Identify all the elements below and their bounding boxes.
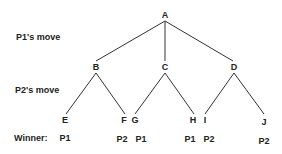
node-d: D bbox=[231, 62, 238, 72]
tree-edges bbox=[0, 0, 282, 154]
winner-j: P2 bbox=[258, 136, 269, 146]
node-i: I bbox=[204, 115, 207, 125]
game-tree-diagram: P1's move P2's move Winner: A B C D E F … bbox=[0, 0, 282, 154]
edge-c-h bbox=[165, 73, 194, 114]
edge-b-e bbox=[66, 73, 96, 114]
winner-g: P1 bbox=[135, 134, 146, 144]
node-f: F bbox=[121, 115, 127, 125]
winner-e: P1 bbox=[59, 133, 70, 143]
winner-label: Winner: bbox=[14, 133, 47, 143]
edge-d-i bbox=[205, 73, 234, 114]
edge-c-g bbox=[135, 73, 165, 114]
node-g: G bbox=[131, 115, 138, 125]
winner-i: P2 bbox=[203, 134, 214, 144]
p1-move-label: P1's move bbox=[16, 32, 60, 42]
edge-a-d bbox=[165, 21, 233, 61]
node-b: B bbox=[93, 62, 100, 72]
edge-a-b bbox=[96, 21, 165, 61]
winner-f: P2 bbox=[116, 134, 127, 144]
edge-b-f bbox=[96, 73, 125, 114]
node-h: H bbox=[190, 115, 197, 125]
p2-move-label: P2's move bbox=[15, 85, 59, 95]
node-c: C bbox=[162, 62, 169, 72]
node-e: E bbox=[62, 115, 68, 125]
node-j: J bbox=[261, 117, 266, 127]
winner-h: P1 bbox=[184, 134, 195, 144]
edge-d-j bbox=[234, 73, 264, 114]
node-a: A bbox=[162, 10, 169, 20]
